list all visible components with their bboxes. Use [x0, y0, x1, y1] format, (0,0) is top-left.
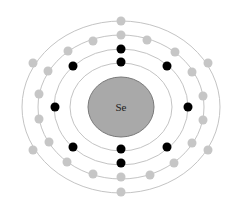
electron-shell-2	[184, 103, 193, 112]
electron-shell-4	[117, 17, 126, 26]
electron-shell-3	[89, 170, 98, 179]
electron-shell-3	[35, 115, 44, 124]
electron-shell-3	[117, 31, 126, 40]
electron-shell-3	[44, 67, 53, 76]
electron-shell-3	[64, 47, 73, 56]
electron-shell-1	[117, 58, 126, 67]
electron-shell-2	[163, 62, 172, 71]
electron-shell-3	[35, 90, 44, 99]
electron-shell-2	[51, 103, 60, 112]
electron-shell-2	[69, 143, 78, 152]
electron-shell-3	[188, 68, 197, 77]
nucleus: Se	[88, 77, 154, 137]
electron-shell-3	[89, 37, 98, 46]
electron-shell-1	[117, 145, 126, 154]
electron-shell-4	[29, 146, 38, 155]
electron-shell-3	[117, 173, 126, 182]
electron-shell-3	[199, 116, 208, 125]
electron-shell-2	[117, 159, 126, 168]
electron-shell-2	[163, 143, 172, 152]
electron-shell-3	[45, 138, 54, 147]
electron-shell-4	[204, 146, 213, 155]
electron-shell-3	[170, 159, 179, 168]
electron-shell-4	[204, 59, 213, 68]
electron-shell-3	[143, 36, 152, 45]
electron-shell-3	[171, 48, 180, 57]
electron-shell-2	[117, 45, 126, 54]
electron-shell-3	[188, 139, 197, 148]
electron-shell-4	[29, 59, 38, 68]
electron-shell-3	[199, 92, 208, 101]
electron-shell-3	[146, 171, 155, 180]
electron-shell-2	[69, 62, 78, 71]
electron-shell-3	[63, 158, 72, 167]
electron-shell-4	[117, 188, 126, 197]
bohr-model-diagram: Se	[0, 0, 238, 209]
element-symbol-label: Se	[116, 101, 127, 113]
